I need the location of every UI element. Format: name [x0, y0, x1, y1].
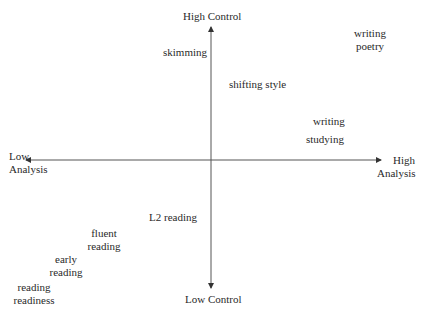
axis-label-left: LowAnalysis [9, 150, 48, 176]
item-writing-poetry: writingpoetry [352, 27, 388, 53]
item-reading-readiness: readingreadiness [13, 281, 55, 307]
item-skimming: skimming [163, 46, 207, 59]
item-fluent-reading: fluentreading [86, 227, 122, 253]
item-l2-reading: L2 reading [149, 211, 197, 224]
item-shifting-style: shifting style [229, 78, 286, 91]
item-early-reading: earlyreading [48, 253, 84, 279]
axis-label-right: HighAnalysis [377, 154, 415, 180]
axis-label-bottom: Low Control [185, 293, 242, 306]
item-writing: writing [313, 115, 345, 128]
item-studying: studying [306, 133, 344, 146]
axis-label-top: High Control [183, 10, 241, 23]
